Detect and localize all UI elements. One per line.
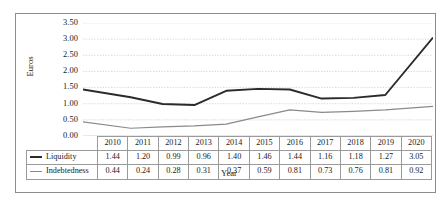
plot-area [83,23,433,136]
series-lines [83,38,433,129]
y-tick-label: 3.50 [63,19,78,27]
legend-entry-liquidity[interactable]: Liquidity [27,151,98,165]
table-header-year: 2018 [340,137,370,151]
y-tick-label: 1.50 [63,83,78,91]
table-header-year: 2012 [158,137,188,151]
x-axis-title: Year [26,169,432,178]
table-cell: 1.44 [280,151,310,165]
table-cell: 0.99 [158,151,188,165]
series-line-indebtedness [83,106,433,128]
table-row: Liquidity1.441.200.990.961.401.461.441.1… [27,151,432,165]
table-cell: 1.18 [340,151,370,165]
legend-label: Liquidity [46,153,76,161]
table-cell: 3.05 [401,151,431,165]
table-header-year: 2013 [189,137,219,151]
y-tick-label: 2.50 [63,51,78,59]
table-cell: 1.16 [310,151,340,165]
chart-plot-svg [83,23,433,136]
y-tick-label: 1.00 [63,100,78,108]
table-cell: 1.20 [128,151,158,165]
y-tick-label: 2.00 [63,67,78,75]
table-cell: 1.40 [219,151,249,165]
table-header-year: 2011 [128,137,158,151]
table-header-row: 2010201120122013201420152016201720182019… [27,137,432,151]
gridlines [83,23,433,136]
table-header-year: 2020 [401,137,431,151]
table-cell: 1.44 [98,151,128,165]
chart-figure: Euros 0.000.501.001.502.002.503.003.50 2… [15,13,436,193]
y-tick-label: 0.50 [63,116,78,124]
table-header-year: 2015 [249,137,279,151]
table-header-year: 2019 [371,137,401,151]
table-header-year: 2010 [98,137,128,151]
table-cell: 1.27 [371,151,401,165]
table-header-year: 2017 [310,137,340,151]
legend-line-swatch-icon [30,156,42,158]
y-axis-tick-labels: 0.000.501.001.502.002.503.003.50 [34,14,80,146]
table-cell: 0.96 [189,151,219,165]
table-corner-cell [27,137,98,151]
y-tick-label: 3.00 [63,35,78,43]
table-header-year: 2014 [219,137,249,151]
table-cell: 1.46 [249,151,279,165]
table-header-year: 2016 [280,137,310,151]
